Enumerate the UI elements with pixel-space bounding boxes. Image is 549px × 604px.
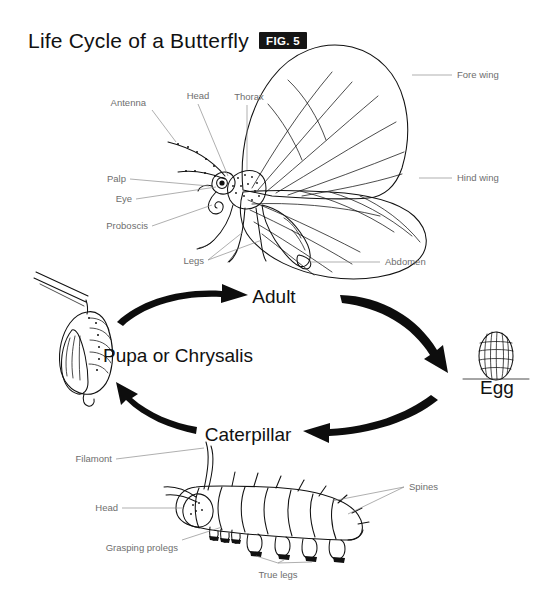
arrow-caterpillar-to-pupa (116, 382, 197, 434)
label-eye: Eye (116, 193, 132, 204)
label-thorax: Thorax (234, 91, 264, 102)
twig-line-2 (36, 272, 88, 296)
caterpillar-segment-4 (264, 488, 268, 534)
antenna-lower (178, 171, 225, 179)
spine-1 (232, 472, 235, 486)
egg-rib-3 (496, 332, 497, 379)
label-palp: Palp (107, 173, 126, 184)
chrysalis-illustration (34, 272, 112, 406)
true-legs-leader-a (256, 556, 278, 563)
spine-3 (276, 476, 281, 488)
egg-ring-1 (480, 342, 512, 344)
caterpillar-segment-3 (241, 487, 245, 532)
caterpillar-segment-5 (288, 490, 292, 536)
fore-wing-vein-3 (266, 96, 378, 192)
leg-front (197, 205, 233, 249)
label-head: Head (187, 90, 210, 101)
figure-title: Life Cycle of a Butterfly (28, 29, 249, 52)
caterpillar-segment-6 (311, 494, 315, 537)
leg-front-tarsus (199, 240, 214, 248)
caterpillar-body (176, 486, 362, 540)
chrysalis-dots (88, 317, 100, 371)
label-hind-wing: Hind wing (457, 172, 499, 183)
caterpillar-tail (348, 530, 363, 540)
wing-case-line-2 (72, 336, 75, 378)
fore-wing-vein-8 (268, 104, 302, 160)
wing-case-line-3 (79, 336, 80, 380)
proleg-3-foot (305, 556, 317, 562)
eye-leader (136, 187, 216, 199)
caterpillar-head-dots (190, 502, 203, 515)
head-leader (198, 104, 228, 176)
antenna-leader (152, 110, 176, 142)
spine-7 (352, 508, 362, 513)
caterpillar-label-group: Filamont Head Grasping prolegs True legs… (76, 448, 439, 580)
spine-2 (254, 473, 258, 486)
proleg-3 (302, 539, 317, 558)
proleg-2-foot (278, 554, 290, 560)
legs-leader-a (208, 232, 243, 260)
thorax-texture (232, 174, 260, 201)
spine-8 (358, 522, 369, 524)
butterfly-label-group: Antenna Head Thorax Fore wing Hind wing … (106, 69, 498, 267)
label-antenna: Antenna (111, 97, 147, 108)
egg-rib-2 (491, 332, 493, 379)
adult-butterfly-illustration (168, 45, 426, 279)
caterpillar-head (183, 494, 213, 527)
proleg-4-foot (333, 557, 345, 563)
twig-line-3 (40, 284, 84, 306)
leg-middle-tarsus (228, 248, 238, 262)
palp-leader (130, 179, 209, 186)
caterpillar-segment-7 (332, 499, 336, 539)
stage-label-adult: Adult (252, 286, 296, 307)
egg-rib-1 (485, 334, 487, 377)
twig-line-1 (34, 278, 86, 302)
wing-case-line-1 (66, 338, 70, 376)
stage-label-caterpillar: Caterpillar (205, 424, 292, 445)
hind-wing-vein-5 (300, 191, 394, 232)
chrysalis-tail (83, 394, 94, 406)
leg-middle (229, 208, 245, 262)
egg-illustration (463, 332, 529, 380)
butterfly-life-cycle-figure: Life Cycle of a Butterfly FIG. 5 (0, 0, 549, 604)
spine-4 (298, 480, 304, 491)
egg-rib-4 (502, 333, 504, 378)
true-legs-leader-c (278, 562, 312, 563)
proleg-2 (275, 537, 290, 556)
antenna-upper (168, 142, 225, 176)
abdomen-shape (262, 205, 310, 267)
spines-leader-a (332, 487, 404, 501)
proboscis-leader (152, 205, 212, 226)
label-caterpillar-head: Head (95, 502, 118, 513)
label-proboscis: Proboscis (106, 220, 148, 231)
fore-wing-shape (242, 45, 407, 199)
figure-number-badge: FIG. 5 (259, 32, 307, 49)
label-spines: Spines (409, 481, 438, 492)
stage-label-pupa: Pupa or Chrysalis (103, 345, 253, 366)
arrow-pupa-to-adult (117, 284, 248, 326)
label-true-legs: True legs (258, 569, 297, 580)
filament-long (204, 442, 208, 489)
proboscis-coil (208, 192, 223, 214)
arrow-egg-to-caterpillar (303, 395, 438, 443)
label-abdomen: Abdomen (385, 256, 426, 267)
label-filament: Filamont (76, 453, 113, 464)
caterpillar-illustration (164, 442, 369, 563)
spines-leader-b (348, 487, 404, 514)
filament-long-edge (208, 446, 213, 490)
figure-canvas: Life Cycle of a Butterfly FIG. 5 (0, 0, 549, 604)
label-grasping-prolegs: Grasping prolegs (106, 542, 179, 553)
label-legs: Legs (183, 255, 204, 266)
hind-wing-vein-1 (248, 200, 360, 252)
chrysalis-segment-2 (90, 328, 111, 340)
fore-wing-vein-4 (276, 122, 396, 193)
fore-wing-vein-2 (258, 82, 352, 190)
chrysalis-wing-case (61, 330, 88, 394)
label-fore-wing: Fore wing (457, 69, 499, 80)
caterpillar-segment-2 (218, 487, 222, 530)
legs-leader-b (208, 240, 262, 260)
filament-leader (116, 448, 204, 459)
arrow-adult-to-egg (340, 295, 448, 373)
fore-wing-vein-7 (288, 80, 326, 140)
proleg-4 (329, 540, 345, 559)
